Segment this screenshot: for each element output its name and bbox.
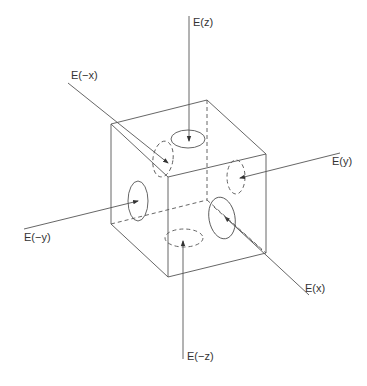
aperture-front-right-face — [206, 195, 239, 241]
arrow-emx — [68, 83, 168, 163]
apertures — [128, 130, 245, 247]
aperture-top — [171, 130, 205, 148]
cube-hidden-edge-right-bottom — [207, 200, 266, 253]
aperture-bottom — [165, 229, 203, 247]
cube-hidden-edge-back-bottom — [111, 200, 207, 224]
label-emy: E(−y) — [24, 231, 51, 243]
cube-edge-bottom-left — [111, 224, 168, 277]
label-ex: E(x) — [305, 282, 325, 294]
label-emz: E(−z) — [187, 350, 214, 362]
arrow-emy — [24, 201, 138, 229]
labels: E(z) E(−x) E(y) E(−y) E(x) E(−z) — [24, 16, 352, 362]
label-ez: E(z) — [193, 16, 213, 28]
label-ey: E(y) — [332, 155, 352, 167]
label-emx: E(−x) — [71, 69, 98, 81]
diagram-canvas: E(z) E(−x) E(y) E(−y) E(x) E(−z) — [0, 0, 367, 386]
cube — [111, 100, 266, 277]
arrow-ex — [225, 217, 309, 295]
field-arrows — [24, 16, 340, 359]
